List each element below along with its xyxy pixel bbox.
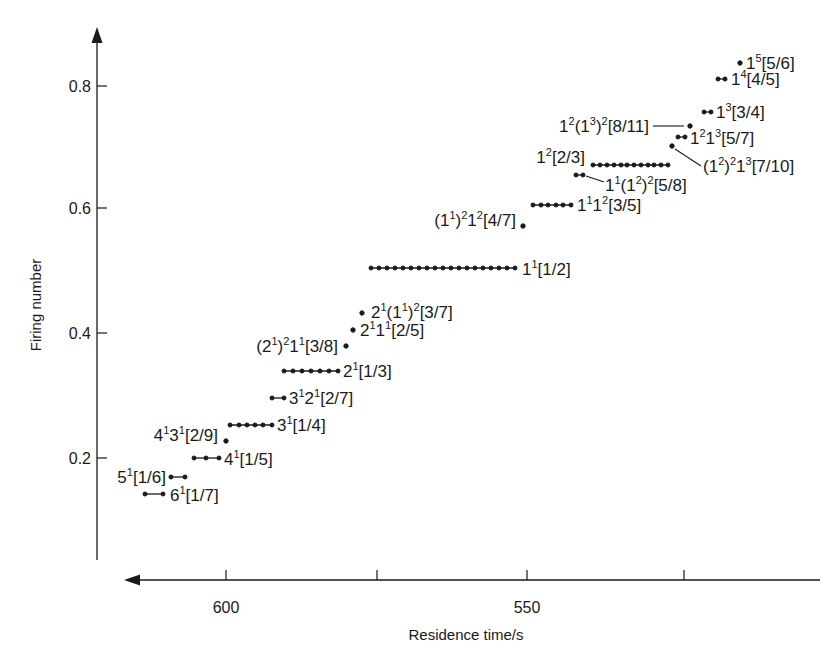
series-label: 11​12​[3/5] xyxy=(577,194,641,215)
data-points xyxy=(143,61,742,496)
series-label: 41​[1/5] xyxy=(224,448,273,469)
x-axis: 600 550 Residence time/s xyxy=(124,570,820,643)
y-tick-label: 0.8 xyxy=(69,78,91,95)
x-axis-title: Residence time/s xyxy=(408,626,523,643)
y-tick-label: 0.2 xyxy=(69,450,91,467)
x-axis-arrow-icon xyxy=(124,575,140,586)
series-label: (12​)2​13​[7/10] xyxy=(703,155,794,176)
series-label: 61​[1/7] xyxy=(170,484,219,505)
series-label: 41​31​[2/9] xyxy=(154,424,218,445)
series-label: (21​)2​11​[3/8] xyxy=(256,335,338,356)
series-label: 11​(12​)2​[5/8] xyxy=(605,174,687,195)
series-label: 12​13​[5/7] xyxy=(690,127,754,148)
series-label: 21​[1/3] xyxy=(343,360,392,381)
series-label: 15​[5/6] xyxy=(746,52,795,73)
series-label: 21​(11​)2​[3/7] xyxy=(371,301,453,322)
series-label: 31​[1/4] xyxy=(277,414,326,435)
y-axis-arrow-icon xyxy=(92,27,103,43)
series-label: 21​11​[2/5] xyxy=(360,319,424,340)
y-tick-label: 0.6 xyxy=(69,200,91,217)
y-axis: 0.8 0.6 0.4 0.2 Firing number xyxy=(27,27,107,560)
series-label: 51​[1/6] xyxy=(117,466,166,487)
series-label: 12​[2/3] xyxy=(536,146,585,167)
series-label: 31​21​[2/7] xyxy=(289,387,353,408)
x-tick-label: 600 xyxy=(213,599,240,616)
firing-number-chart: 0.8 0.6 0.4 0.2 Firing number 600 550 Re… xyxy=(0,0,839,660)
series-labels: 61​[1/7]51​[1/6]41​[1/5]41​31​[2/9]31​[1… xyxy=(117,52,794,505)
y-axis-title: Firing number xyxy=(27,259,44,352)
x-tick-label: 550 xyxy=(514,599,541,616)
y-tick-label: 0.4 xyxy=(69,325,91,342)
series-label: 13​[3/4] xyxy=(716,101,765,122)
series-label: (11​)2​12​[4/7] xyxy=(434,209,516,230)
series-label: 11​[1/2] xyxy=(522,258,571,279)
series-label: 12​(13​)2​[8/11] xyxy=(559,115,649,136)
